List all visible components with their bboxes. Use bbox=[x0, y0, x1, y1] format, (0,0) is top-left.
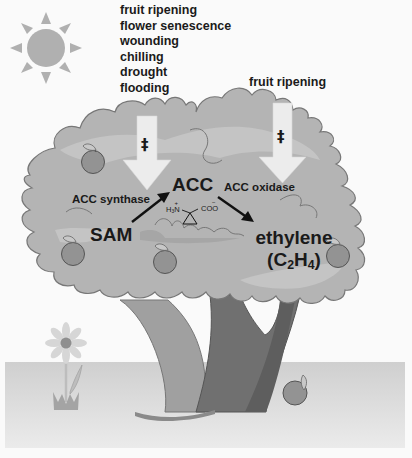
stimulus-item: drought bbox=[120, 65, 231, 81]
enzyme-acc-synthase: ACC synthase bbox=[72, 193, 150, 205]
ethylene-biosynthesis-diagram: fruit ripening flower senescence woundin… bbox=[0, 0, 412, 458]
stimulus-item: fruit ripening bbox=[249, 75, 326, 91]
stimulus-item: chilling bbox=[120, 50, 231, 66]
sun-icon bbox=[10, 12, 82, 84]
substrate-sam: SAM bbox=[90, 224, 132, 246]
product-formula: (C2H4) bbox=[244, 249, 344, 276]
stimulus-item: flooding bbox=[120, 81, 231, 97]
regulation-symbol-left: ‡ bbox=[141, 136, 149, 154]
stimuli-list-right: fruit ripening bbox=[249, 75, 326, 91]
stimuli-list-left: fruit ripening flower senescence woundin… bbox=[120, 3, 231, 96]
stimulus-item: flower senescence bbox=[120, 19, 231, 35]
acc-carboxylate-group: COO− bbox=[201, 202, 222, 213]
stimulus-item: fruit ripening bbox=[120, 3, 231, 19]
acc-amine-group: H3N+ bbox=[166, 203, 183, 214]
product-name: ethylene bbox=[244, 227, 344, 249]
regulation-symbol-right: ‡ bbox=[277, 128, 285, 146]
enzyme-acc-oxidase: ACC oxidase bbox=[224, 181, 295, 193]
stimulus-item: wounding bbox=[120, 34, 231, 50]
product-ethylene: ethylene (C2H4) bbox=[244, 227, 344, 276]
intermediate-acc: ACC bbox=[172, 174, 213, 196]
